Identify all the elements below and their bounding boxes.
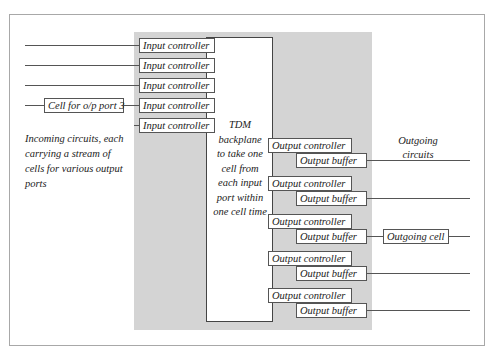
output-controller-1: Output controller	[268, 138, 352, 153]
incoming-caption-line-3: cells for various output	[25, 161, 123, 176]
input-controller-3: Input controller	[139, 78, 215, 93]
backplane-line-3: to take one	[208, 147, 272, 162]
backplane-line-1: TDM	[208, 118, 272, 133]
output-buffer-4: Output buffer	[296, 266, 367, 281]
input-controller-5: Input controller	[139, 118, 215, 133]
outgoing-line-5	[367, 310, 470, 311]
incoming-line-2	[25, 65, 140, 66]
outgoing-line-4	[367, 273, 470, 274]
incoming-line-3	[25, 85, 140, 86]
output-buffer-2: Output buffer	[296, 191, 367, 206]
backplane-line-2: backplane	[208, 133, 272, 148]
backplane-line-5: each input	[208, 176, 272, 191]
outgoing-line-3a	[367, 236, 383, 237]
outgoing-line-2	[367, 198, 470, 199]
output-buffer-3: Output buffer	[296, 229, 367, 244]
backplane-line-7: one cell time	[208, 205, 272, 220]
input-controller-4: Input controller	[139, 98, 215, 113]
input-controller-2: Input controller	[139, 58, 215, 73]
outgoing-line-3b	[449, 236, 470, 237]
outgoing-caption-line-1: Outgoing	[388, 133, 448, 148]
incoming-cell-box: Cell for o/p port 3	[44, 98, 124, 113]
outgoing-cell-box: Outgoing cell	[383, 229, 449, 244]
incoming-line-1	[25, 45, 140, 46]
output-buffer-1: Output buffer	[296, 153, 367, 168]
incoming-caption-line-1: Incoming circuits, each	[25, 131, 123, 146]
output-buffer-5: Output buffer	[296, 303, 367, 318]
output-controller-4: Output controller	[268, 251, 352, 266]
input-controller-1: Input controller	[139, 38, 215, 53]
backplane-line-4: cell from	[208, 162, 272, 177]
outgoing-caption-line-2: circuits	[388, 147, 448, 162]
output-controller-2: Output controller	[268, 176, 352, 191]
output-controller-3: Output controller	[268, 214, 352, 229]
incoming-caption-line-4: ports	[25, 176, 47, 191]
output-controller-5: Output controller	[268, 288, 352, 303]
backplane-description: TDM backplane to take one cell from each…	[208, 118, 272, 220]
incoming-caption-line-2: carrying a stream of	[25, 146, 111, 161]
backplane-line-6: port within	[208, 191, 272, 206]
